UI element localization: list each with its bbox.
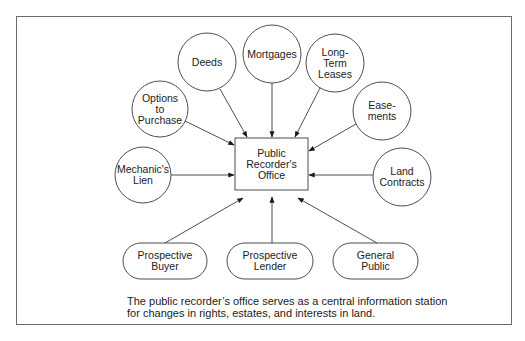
diagram-caption: The public recorder’s office serves as a…	[127, 295, 447, 319]
center-label: Public Recorder's Office	[235, 138, 308, 190]
caption-line-2: for changes in rights, estates, and inte…	[127, 307, 447, 319]
node-prospective-lender: Prospective Lender	[227, 243, 313, 279]
node-prospective-buyer: Prospective Buyer	[123, 243, 207, 279]
caption-line-1: The public recorder’s office serves as a…	[127, 295, 447, 307]
buyer-arrow	[165, 198, 243, 243]
node-land-contracts: Land Contracts	[373, 148, 431, 206]
node-options-to-purchase: Options to Purchase	[132, 81, 188, 137]
public-arrow	[298, 198, 377, 243]
easements-arrow	[309, 124, 356, 151]
long-term-leases-arrow	[295, 88, 320, 137]
node-general-public: General Public	[333, 243, 418, 279]
deeds-arrow	[220, 89, 247, 137]
node-mortgages: Mortgages	[243, 25, 301, 83]
node-mechanics-lien: Mechanic's Lien	[115, 147, 171, 203]
options-arrow	[185, 121, 234, 145]
node-easements: Ease- ments	[353, 82, 411, 140]
